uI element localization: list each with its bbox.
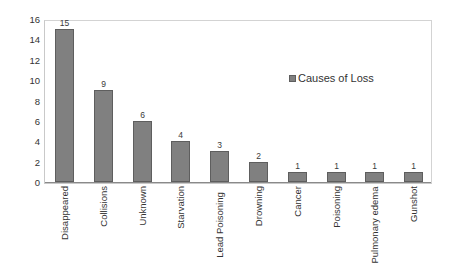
bar-group[interactable]: 6 (133, 121, 152, 182)
y-axis-tick-label: 4 (20, 136, 40, 148)
bar[interactable] (171, 141, 190, 182)
plot-area: 15964321111 Causes of Loss (44, 20, 432, 184)
legend-swatch-icon (289, 75, 296, 82)
x-axis-category-label: Starvation (174, 186, 185, 229)
x-axis-category-label: Gunshot (407, 186, 418, 222)
y-axis-tick-label: 6 (20, 116, 40, 128)
bar-group[interactable]: 2 (249, 162, 268, 182)
bar[interactable] (249, 162, 268, 182)
bar-group[interactable]: 3 (210, 151, 229, 182)
bar-value-label: 1 (279, 161, 316, 171)
y-axis-tick-label: 10 (20, 75, 40, 87)
x-axis-baseline (45, 182, 431, 183)
bar-value-label: 9 (85, 79, 122, 89)
x-axis-category-label: Cancer (291, 186, 302, 217)
x-axis-label-slot: Collisions (93, 186, 112, 268)
x-axis-label-slot: Gunshot (403, 186, 422, 268)
bar-group[interactable]: 1 (288, 172, 307, 182)
x-axis-category-labels: DisappearedCollisionsUnknownStarvationLe… (44, 186, 432, 268)
x-axis-category-label: Collisions (97, 186, 108, 227)
x-axis-label-slot: Drowning (248, 186, 267, 268)
y-axis-tick-labels: 0246810121416 (20, 20, 40, 184)
legend: Causes of Loss (289, 72, 374, 85)
x-axis-category-label: Disappeared (58, 186, 69, 240)
bar-value-label: 15 (46, 18, 83, 28)
bar-group[interactable]: 15 (55, 29, 74, 182)
x-axis-category-label: Lead Poisoning (213, 186, 224, 264)
bar[interactable] (404, 172, 423, 182)
x-axis-label-slot: Cancer (287, 186, 306, 268)
bar-chart: Number of condors 0246810121416 15964321… (0, 0, 449, 268)
x-axis-category-label: Poisoning (330, 186, 341, 228)
bar-value-label: 6 (124, 110, 161, 120)
bar-value-label: 4 (162, 130, 199, 140)
bar-group[interactable]: 1 (404, 172, 423, 182)
bar-value-label: 1 (318, 161, 355, 171)
bar[interactable] (288, 172, 307, 182)
x-axis-label-slot: Disappeared (54, 186, 73, 268)
bar-value-label: 1 (356, 161, 393, 171)
y-axis-tick-label: 0 (20, 177, 40, 189)
bar-group[interactable]: 1 (327, 172, 346, 182)
bar[interactable] (55, 29, 74, 182)
bar[interactable] (94, 90, 113, 182)
bar-group[interactable]: 1 (365, 172, 384, 182)
bar-value-label: 1 (395, 161, 432, 171)
y-axis-tick-label: 8 (20, 96, 40, 108)
y-axis-tick-label: 12 (20, 55, 40, 67)
bar[interactable] (133, 121, 152, 182)
bar[interactable] (365, 172, 384, 182)
x-axis-label-slot: Unknown (132, 186, 151, 268)
bar-value-label: 2 (240, 151, 277, 161)
x-axis-label-slot: Lead Poisoning (209, 186, 228, 268)
x-axis-label-slot: Starvation (170, 186, 189, 268)
x-axis-label-slot: Poisoning (326, 186, 345, 268)
x-axis-category-label: Pulmonary edema (368, 186, 379, 264)
bar[interactable] (210, 151, 229, 182)
bar[interactable] (327, 172, 346, 182)
x-axis-category-label: Unknown (136, 186, 147, 226)
bar-group[interactable]: 9 (94, 90, 113, 182)
x-axis-label-slot: Pulmonary edema (364, 186, 383, 268)
y-axis-tick-label: 16 (20, 14, 40, 26)
legend-label: Causes of Loss (298, 72, 374, 85)
bar-group[interactable]: 4 (171, 141, 190, 182)
y-axis-tick-label: 2 (20, 157, 40, 169)
bar-value-label: 3 (201, 140, 238, 150)
y-axis-tick-label: 14 (20, 34, 40, 46)
x-axis-category-label: Drowning (252, 186, 263, 226)
